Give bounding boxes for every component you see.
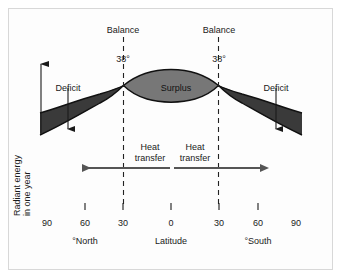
degree-label-north: 38° [116,54,130,64]
x-tick-label-3: 0 [168,218,173,228]
x-tick-label-5: 60 [253,218,263,228]
x-axis-ticks [85,203,258,210]
deficit-area-right [219,86,303,136]
heat-transfer-label-left-line1: Heat [135,142,166,153]
degree-label-south: 38° [212,54,226,64]
heat-transfer-label-left: Heat transfer [135,142,166,163]
heat-transfer-label-right-line2: transfer [180,153,211,164]
y-axis-label-line2: in one year [22,155,32,216]
y-axis-label: Radiant energy in one year [12,155,32,216]
deficit-label-left: Deficit [55,83,80,93]
hemisphere-label-south: °South [244,236,271,246]
deficit-label-right: Deficit [263,83,288,93]
x-tick-label-1: 60 [80,218,90,228]
x-tick-label-2: 30 [118,218,128,228]
balance-label-north: Balance [107,25,140,35]
heat-transfer-label-left-line2: transfer [135,153,166,164]
deficit-area-left [40,86,124,136]
x-tick-label-4: 30 [214,218,224,228]
balance-label-south: Balance [203,25,236,35]
surplus-label: Surplus [161,83,192,93]
x-tick-label-6: 90 [291,218,301,228]
x-tick-label-0: 90 [42,218,52,228]
hemisphere-label-north: °North [72,236,98,246]
heat-transfer-label-right-line1: Heat [180,142,211,153]
radiation-balance-figure: Radiant energy in one year Balance 38° B… [0,0,343,280]
heat-transfer-label-right: Heat transfer [180,142,211,163]
x-axis-title: Latitude [155,236,187,246]
y-axis-label-line1: Radiant energy [12,155,22,216]
